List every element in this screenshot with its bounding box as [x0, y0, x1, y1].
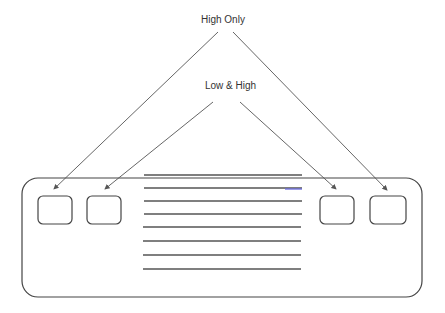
display-lines: [143, 175, 302, 269]
device-panel: [22, 178, 422, 297]
arrows-high-only: [54, 32, 387, 190]
button-far-left[interactable]: [38, 196, 72, 224]
label-high-only: High Only: [201, 14, 245, 25]
diagram-canvas: [0, 0, 445, 313]
button-inner-left[interactable]: [87, 196, 121, 224]
button-far-right[interactable]: [370, 196, 406, 224]
arrows-low-high: [105, 102, 336, 189]
button-inner-right[interactable]: [320, 196, 354, 224]
label-low-and-high: Low & High: [205, 80, 256, 91]
